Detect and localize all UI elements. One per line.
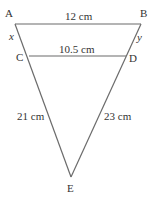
vertex-label-a: A [5, 7, 13, 19]
length-label-cd: 10.5 cm [59, 43, 95, 55]
length-label-bd: y [136, 31, 142, 43]
length-label-ac: x [8, 30, 14, 42]
length-label-ce: 21 cm [17, 110, 45, 122]
vertex-label-b: B [140, 7, 147, 19]
triangle-diagram: A B C D E 12 cm 10.5 cm x y 21 cm 23 cm [0, 0, 152, 199]
length-label-ab: 12 cm [65, 10, 93, 22]
vertex-label-e: E [67, 182, 74, 194]
vertex-label-d: D [129, 52, 137, 64]
length-label-de: 23 cm [104, 110, 132, 122]
vertex-label-c: C [16, 51, 23, 63]
